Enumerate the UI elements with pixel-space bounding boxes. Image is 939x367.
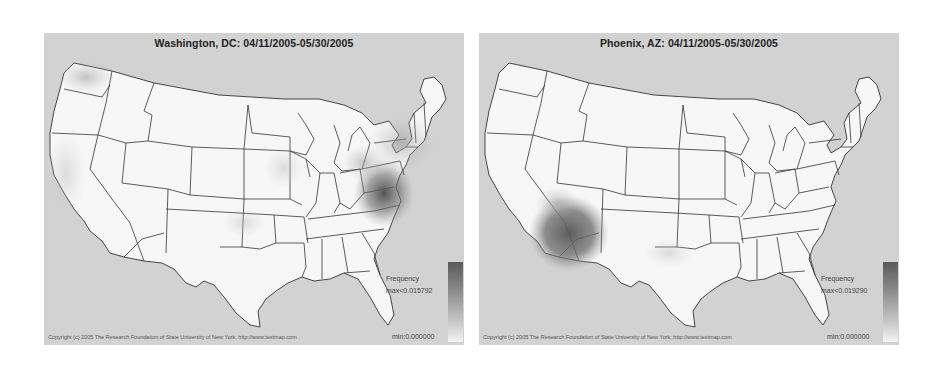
copyright-notice: Copyright (c) 2005 The Research Foundati… — [483, 334, 732, 340]
legend-min-value: min:0.000000 — [392, 333, 434, 340]
frequency-colorbar — [883, 262, 898, 342]
map-title: Phoenix, AZ: 04/11/2005-05/30/2005 — [479, 37, 899, 49]
frequency-colorbar — [448, 262, 463, 342]
legend-min-value: min:0.000000 — [827, 333, 869, 340]
us-map — [479, 33, 899, 345]
legend-title: Frequency — [821, 275, 854, 282]
legend-max-value: max<0.019290 — [821, 287, 868, 294]
copyright-notice: Copyright (c) 2005 The Research Foundati… — [48, 334, 297, 340]
legend-max-value: max<0.015792 — [386, 287, 433, 294]
map-panel-phoenix-az: Phoenix, AZ: 04/11/2005-05/30/2005 Frequ… — [479, 33, 899, 345]
us-map — [44, 33, 464, 345]
map-panel-washington-dc: Washington, DC: 04/11/2005-05/30/2005 Fr… — [44, 33, 464, 345]
legend-title: Frequency — [386, 275, 419, 282]
map-title: Washington, DC: 04/11/2005-05/30/2005 — [44, 37, 464, 49]
